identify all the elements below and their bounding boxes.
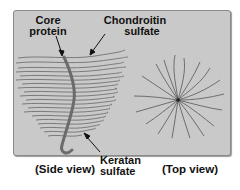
chondroitin-sulfate-label-line2: sulfate	[100, 26, 170, 37]
keratan-sulfate-label-line2: sulfate	[100, 166, 160, 177]
keratan-sulfate-label: Keratan sulfate	[100, 155, 160, 177]
top-view-caption: (Top view)	[155, 164, 225, 175]
top-view-radial-chains	[134, 55, 224, 138]
chondroitin-sulfate-label: Chondroitin sulfate	[100, 15, 170, 37]
label-arrows	[56, 34, 105, 152]
core-protein-label-line2: protein	[22, 26, 74, 37]
side-view-chains	[16, 50, 128, 136]
side-view-caption: (Side view)	[30, 164, 100, 175]
top-view-center	[176, 98, 180, 102]
core-protein-label: Core protein	[22, 15, 74, 37]
